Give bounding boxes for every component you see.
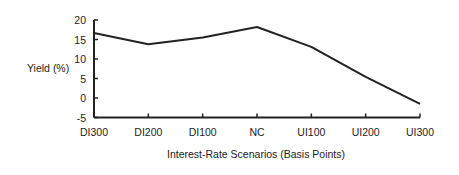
y-axis: 20151050-5 bbox=[74, 14, 98, 124]
y-tick-label: 20 bbox=[74, 14, 86, 26]
y-tick-label: -5 bbox=[77, 112, 86, 124]
x-tick-label: UI300 bbox=[406, 126, 434, 138]
x-axis-title: Interest-Rate Scenarios (Basis Points) bbox=[167, 148, 345, 160]
x-tick-label: DI200 bbox=[134, 126, 162, 138]
y-tick-label: 0 bbox=[80, 92, 86, 104]
x-tick-label: DI300 bbox=[80, 126, 108, 138]
y-axis-title: Yield (%) bbox=[27, 62, 69, 74]
yield-series-line bbox=[94, 27, 420, 104]
y-tick-label: 15 bbox=[74, 34, 86, 46]
x-axis: DI300DI200DI100NCUI100UI200UI300 bbox=[80, 114, 434, 139]
x-tick-label: UI100 bbox=[297, 126, 325, 138]
y-tick-label: 5 bbox=[80, 73, 86, 85]
x-tick-label: DI100 bbox=[189, 126, 217, 138]
x-tick-label: UI200 bbox=[352, 126, 380, 138]
y-tick-label: 10 bbox=[74, 53, 86, 65]
yield-line-chart: 20151050-5 DI300DI200DI100NCUI100UI200UI… bbox=[0, 0, 459, 175]
x-tick-label: NC bbox=[249, 126, 265, 138]
